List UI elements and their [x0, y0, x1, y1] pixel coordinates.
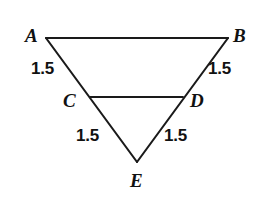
vertex-label-e: E	[130, 171, 143, 190]
length-label-ce: 1.5	[76, 127, 99, 144]
vertex-label-d: D	[190, 91, 204, 110]
vertex-label-a: A	[25, 26, 38, 45]
length-label-bd: 1.5	[208, 60, 231, 77]
vertex-label-b: B	[233, 26, 246, 45]
length-label-ac: 1.5	[31, 60, 54, 77]
length-label-de: 1.5	[164, 127, 187, 144]
geometry-diagram: A B C D E 1.5 1.5 1.5 1.5	[0, 0, 262, 206]
vertex-label-c: C	[63, 91, 76, 110]
